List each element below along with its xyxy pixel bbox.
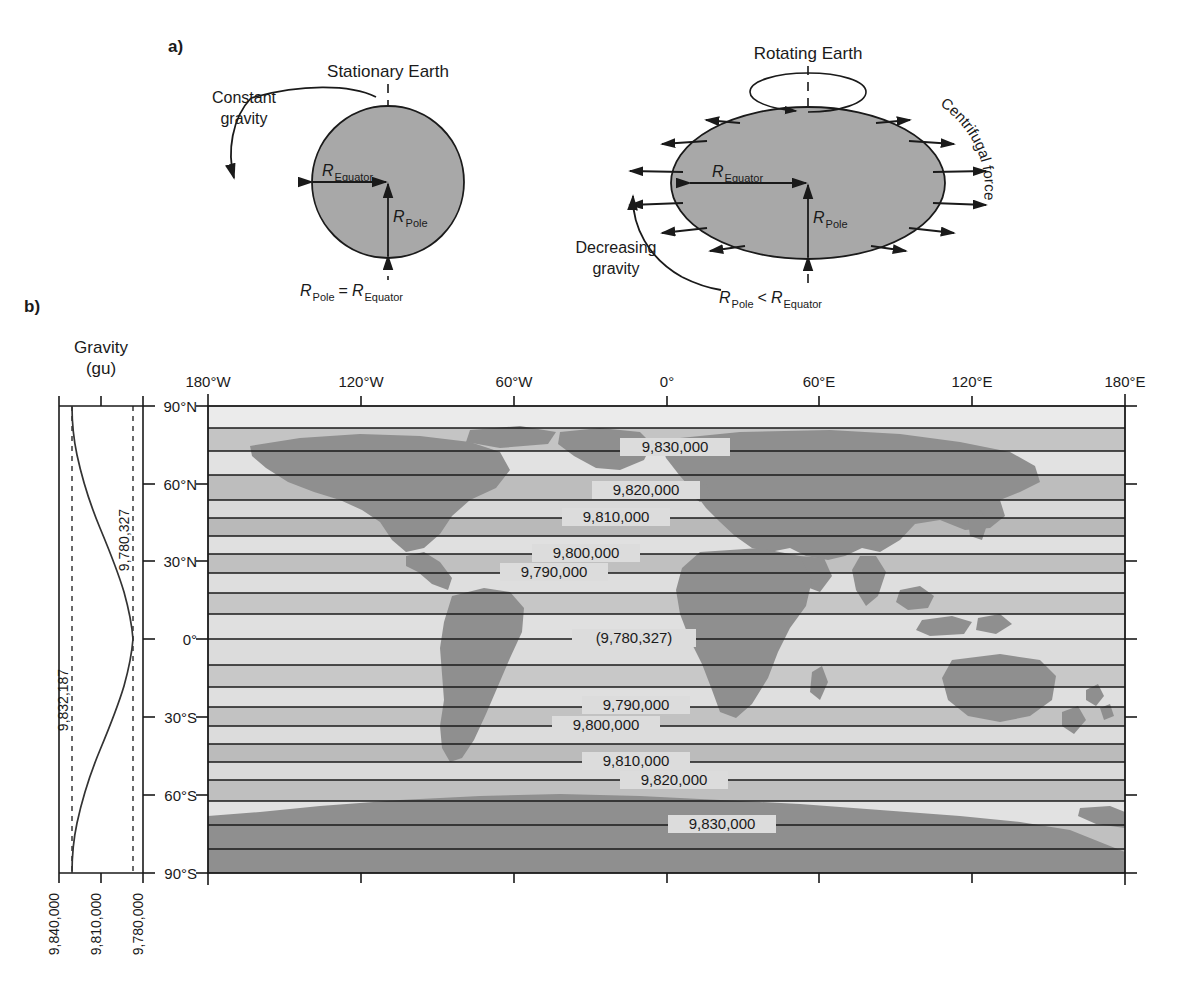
- latitude-label-90n: 90°N: [163, 398, 197, 415]
- constant-gravity-label-line2: gravity: [220, 110, 267, 127]
- contour-label-n-9800000: 9,800,000: [553, 544, 620, 561]
- latitude-label-60s: 60°S: [164, 787, 197, 804]
- latitude-label-60n: 60°N: [163, 476, 197, 493]
- constant-gravity-label-line1: Constant: [212, 89, 277, 106]
- figure-root: a) Stationary Earth Constant gravity REq…: [0, 0, 1183, 987]
- gravity-xtick-label-0: 9,840,000: [46, 893, 62, 955]
- contour-label-s-9830000: 9,830,000: [689, 815, 756, 832]
- latitude-label-30s: 30°S: [164, 709, 197, 726]
- gravity-plot-title: Gravity: [74, 338, 128, 357]
- longitude-label-60w: 60°W: [496, 373, 534, 390]
- decreasing-gravity-arrow: [633, 196, 682, 277]
- stationary-earth-title: Stationary Earth: [327, 62, 449, 81]
- contour-label-n-9810000: 9,810,000: [583, 508, 650, 525]
- longitude-label-0: 0°: [660, 373, 674, 390]
- latitude-label-0: 0°: [183, 631, 197, 648]
- longitude-label-120w: 120°W: [338, 373, 384, 390]
- longitude-label-180w: 180°W: [185, 373, 231, 390]
- gravity-ref-label-pole: 9,832,187: [55, 669, 71, 731]
- contour-label-s-9810000: 9,810,000: [603, 752, 670, 769]
- gravity-ref-label-equator: 9,780,327: [116, 509, 132, 571]
- decreasing-gravity-label-line1: Decreasing: [576, 239, 657, 256]
- decreasing-gravity-label-line2: gravity: [592, 260, 639, 277]
- stationary-radius-relation: RPole=REquator: [300, 282, 403, 303]
- rotating-earth-title: Rotating Earth: [754, 44, 863, 63]
- contour-label-s-9790000: 9,790,000: [603, 696, 670, 713]
- contour-label-s-9820000: 9,820,000: [641, 771, 708, 788]
- gravity-curve: [72, 406, 133, 873]
- contour-label-n-9830000: 9,830,000: [642, 438, 709, 455]
- longitude-label-120e: 120°E: [951, 373, 992, 390]
- contour-label-n-9820000: 9,820,000: [613, 481, 680, 498]
- contour-label-n-9790000: 9,790,000: [521, 563, 588, 580]
- figure-svg: a) Stationary Earth Constant gravity REq…: [0, 0, 1183, 987]
- gravity-xtick-label-1: 9,810,000: [88, 893, 104, 955]
- contour-label-equator-9780327: (9,780,327): [596, 629, 673, 646]
- longitude-label-180e: 180°E: [1104, 373, 1145, 390]
- rotating-radius-relation: RPole<REquator: [719, 289, 822, 310]
- contour-label-s-9800000: 9,800,000: [573, 716, 640, 733]
- panel-a-label: a): [168, 37, 183, 56]
- latitude-label-30n: 30°N: [163, 553, 197, 570]
- gravity-plot-subtitle: (gu): [86, 359, 116, 378]
- decreasing-gravity-arc-tail: [682, 277, 721, 290]
- panel-b-label: b): [24, 297, 40, 316]
- gravity-plot-latitude-ticks: [143, 406, 155, 873]
- centrifugal-force-label: Centrifugal force: [938, 94, 999, 201]
- longitude-label-60e: 60°E: [803, 373, 836, 390]
- latitude-label-90s: 90°S: [164, 865, 197, 882]
- gravity-xtick-label-2: 9,780,000: [130, 893, 146, 955]
